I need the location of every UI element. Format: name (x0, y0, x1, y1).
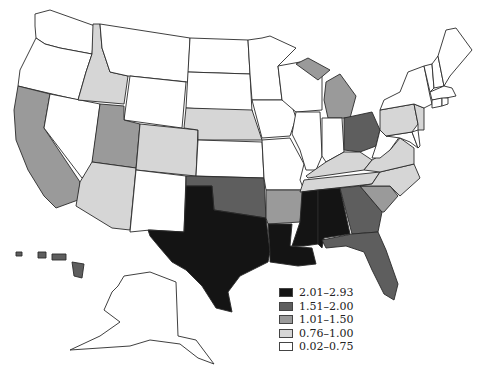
legend-label: 2.01–2.93 (299, 286, 353, 299)
legend-item: 0.76–1.00 (279, 327, 353, 341)
state-CT (432, 98, 442, 108)
legend-item: 2.01–2.93 (279, 286, 353, 300)
map-canvas (0, 0, 480, 376)
legend-swatch (279, 302, 293, 311)
legend-item: 1.01–1.50 (279, 313, 353, 327)
us-choropleth-map: 2.01–2.93 1.51–2.00 1.01–1.50 0.76–1.00 … (0, 0, 480, 376)
state-RI (442, 98, 448, 106)
legend-swatch (279, 329, 293, 338)
state-AK (70, 272, 214, 364)
state-NY (380, 66, 432, 110)
state-HI (16, 252, 84, 278)
state-WY (124, 76, 186, 128)
state-AR (266, 190, 304, 224)
legend-item: 0.02–0.75 (279, 340, 353, 354)
state-ME (438, 28, 472, 86)
state-ND (188, 38, 250, 74)
state-CO (136, 124, 198, 176)
legend-swatch (279, 288, 293, 297)
legend-label: 0.02–0.75 (299, 340, 353, 353)
legend-swatch (279, 342, 293, 351)
legend-swatch (279, 315, 293, 324)
legend-label: 1.01–1.50 (299, 313, 353, 326)
state-KS (196, 140, 264, 178)
map-legend: 2.01–2.93 1.51–2.00 1.01–1.50 0.76–1.00 … (279, 286, 353, 354)
legend-label: 0.76–1.00 (299, 327, 353, 340)
legend-item: 1.51–2.00 (279, 300, 353, 314)
state-SD (186, 72, 252, 112)
state-NM (130, 170, 186, 232)
legend-label: 1.51–2.00 (299, 300, 353, 313)
state-OH (344, 112, 380, 152)
